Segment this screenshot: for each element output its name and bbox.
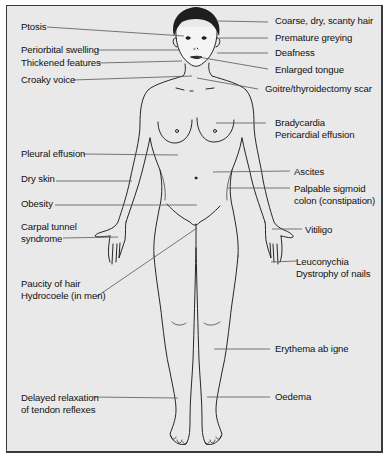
leader-lines <box>47 21 302 398</box>
label-erythema-ab-igne: Erythema ab igne <box>275 343 349 355</box>
label-deafness: Deafness <box>275 47 315 59</box>
label-delayed-relaxation: Delayed relaxationof tendon reflexes <box>21 392 99 415</box>
label-text: colon (constipation) <box>294 195 375 207</box>
label-text: Dystrophy of nails <box>296 268 370 280</box>
label-paucity-of-hair: Paucity of hairHydrocoele (in men) <box>21 278 105 301</box>
label-text: Carpal tunnel <box>21 221 77 233</box>
label-text: Delayed relaxation <box>21 392 99 404</box>
body-outline <box>95 27 293 445</box>
label-enlarged-tongue: Enlarged tongue <box>275 64 344 76</box>
label-text: Erythema ab igne <box>275 343 349 355</box>
label-goitre: Goitre/thyroidectomy scar <box>265 83 372 95</box>
label-carpal-tunnel-syndrome: Carpal tunnelsyndrome <box>21 221 77 244</box>
label-text: Leuconychia <box>296 256 370 268</box>
label-premature-greying: Premature greying <box>275 32 352 44</box>
label-oedema: Oedema <box>275 391 311 403</box>
label-coarse-hair: Coarse, dry, scanty hair <box>275 15 373 27</box>
label-text: Hydrocoele (in men) <box>21 290 105 302</box>
label-text: of tendon reflexes <box>21 404 99 416</box>
label-text: Vitiligo <box>305 224 332 236</box>
label-periorbital-swelling: Periorbital swelling <box>21 44 99 56</box>
label-text: Paucity of hair <box>21 278 105 290</box>
label-thickened-features: Thickened features <box>21 57 101 69</box>
label-text: Dry skin <box>21 173 55 185</box>
label-text: Deafness <box>275 47 315 59</box>
label-text: Goitre/thyroidectomy scar <box>265 83 372 95</box>
label-text: syndrome <box>21 233 77 245</box>
label-text: Croaky voice <box>21 74 75 86</box>
label-text: Pericardial effusion <box>275 129 354 141</box>
label-palpable-sigmoid: Palpable sigmoidcolon (constipation) <box>294 183 375 206</box>
label-text: Enlarged tongue <box>275 64 344 76</box>
label-nails: LeuconychiaDystrophy of nails <box>296 256 370 279</box>
label-text: Ptosis <box>21 21 47 33</box>
label-vitiligo: Vitiligo <box>305 224 332 236</box>
label-text: Periorbital swelling <box>21 44 99 56</box>
label-croaky-voice: Croaky voice <box>21 74 75 86</box>
label-text: Ascites <box>294 166 324 178</box>
label-obesity: Obesity <box>21 198 53 210</box>
label-pleural-effusion: Pleural effusion <box>21 148 85 160</box>
label-text: Pleural effusion <box>21 148 85 160</box>
label-text: Bradycardia <box>275 117 354 129</box>
label-text: Obesity <box>21 198 53 210</box>
label-ptosis: Ptosis <box>21 21 47 33</box>
label-text: Palpable sigmoid <box>294 183 375 195</box>
label-text: Coarse, dry, scanty hair <box>275 15 373 27</box>
label-text: Thickened features <box>21 57 101 69</box>
label-ascites: Ascites <box>294 166 324 178</box>
label-bradycardia: BradycardiaPericardial effusion <box>275 117 354 140</box>
label-text: Premature greying <box>275 32 352 44</box>
label-text: Oedema <box>275 391 311 403</box>
label-dry-skin: Dry skin <box>21 173 55 185</box>
